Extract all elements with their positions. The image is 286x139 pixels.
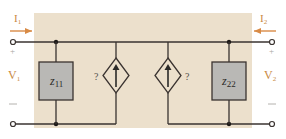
left-source-label: ? [94, 71, 99, 82]
circuit-diagram: z11 z22 ? ? I1 + V1 I2 + V2 [0, 0, 286, 139]
port1-plus-sign: + [10, 46, 15, 56]
port2-voltage-label: V2 [264, 68, 277, 83]
port1-voltage-label: V1 [8, 68, 21, 83]
port2-top-terminal [270, 40, 275, 45]
port1-top-terminal [11, 40, 16, 45]
port2-bottom-terminal [270, 122, 275, 127]
port2-current-label: I2 [260, 12, 268, 26]
right-source-label: ? [185, 71, 190, 82]
port1-bottom-terminal [11, 122, 16, 127]
port1-current-label: I1 [14, 12, 22, 26]
port2-plus-sign: + [269, 46, 274, 56]
